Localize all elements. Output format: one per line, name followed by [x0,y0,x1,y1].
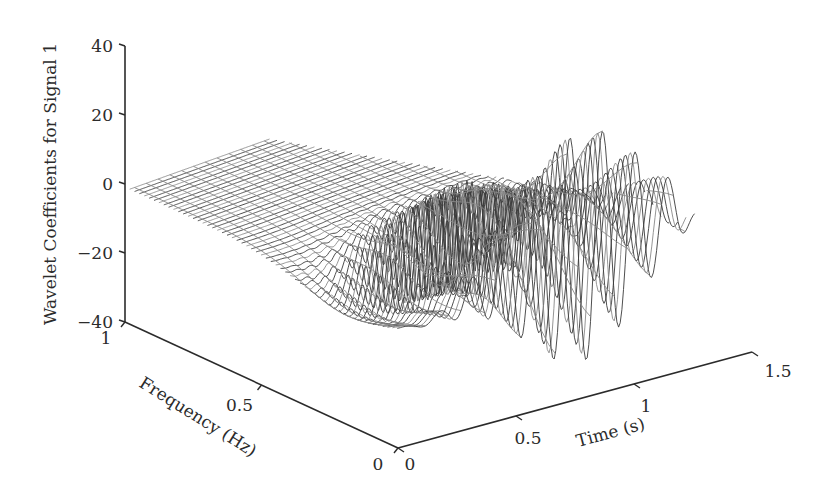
time-tick [752,352,758,356]
time-tick [398,448,404,452]
frequency-tick-label: 1 [101,328,112,348]
time-tick [634,384,640,388]
frequency-tick-label: 0.5 [226,395,253,415]
frequency-tick [258,385,262,390]
frequency-tick [394,448,398,453]
z-tick [119,320,125,322]
wavelet-3d-chart: 40200−20−40 10.50 00.511.5 Wavelet Coeff… [0,0,830,498]
z-tick-label: −20 [77,243,113,263]
z-tick-label: 40 [91,36,113,56]
z-tick [119,251,125,253]
time-tick-label: 0.5 [514,428,541,448]
time-tick-label: 1 [641,396,652,416]
surface-slice [178,152,344,212]
surface-slice [183,153,352,214]
frequency-tick [121,322,125,327]
time-tick-label: 1.5 [764,361,791,381]
time-axis-title: Time (s) [574,413,647,451]
z-axis-title: Wavelet Coefficients for Signal 1 [40,43,60,325]
wireframe-surface [130,131,695,360]
z-tick [119,113,125,115]
z-axis-ticks: 40200−20−40 [77,36,125,332]
frequency-axis-title: Frequency (Hz) [136,372,261,460]
surface-slice [144,143,292,196]
z-tick [119,182,125,184]
z-tick [119,44,125,46]
time-axis-ticks: 00.511.5 [398,352,792,474]
frequency-tick-label: 0 [373,454,384,474]
z-tick-label: 20 [91,105,113,125]
surface-slice [208,160,390,226]
time-tick [516,416,522,420]
time-tick-label: 0 [405,454,416,474]
surface-slice [154,146,307,201]
z-tick-label: 0 [102,174,113,194]
